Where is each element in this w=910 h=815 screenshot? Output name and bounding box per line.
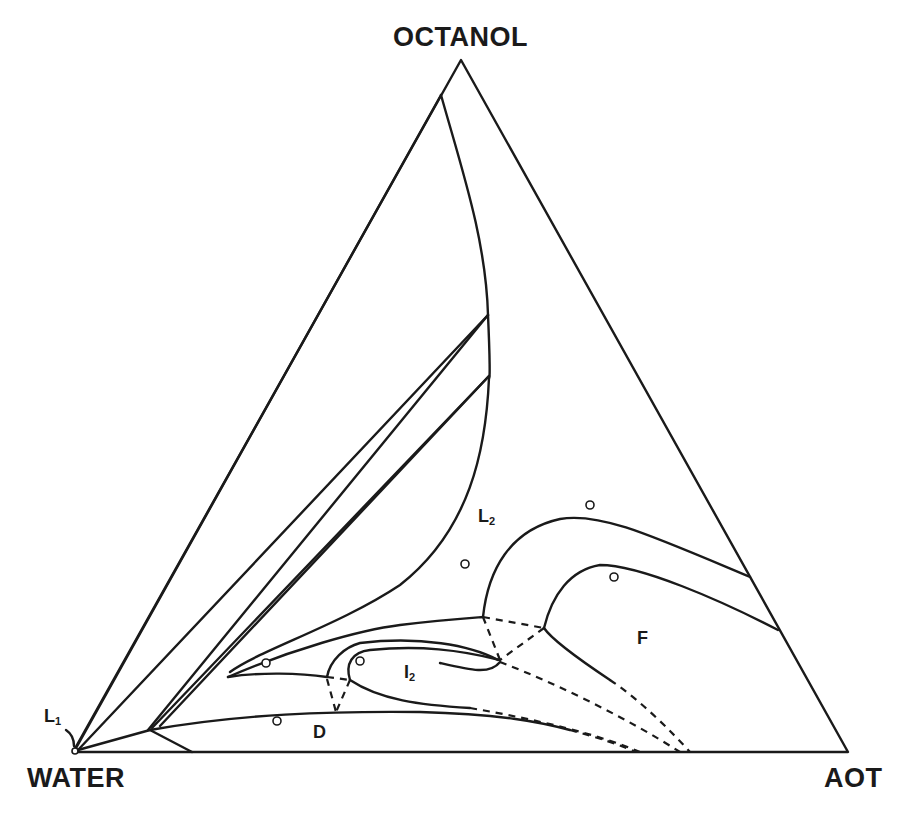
sample-point bbox=[273, 717, 281, 725]
tie-line bbox=[160, 376, 489, 726]
sample-point bbox=[461, 560, 469, 568]
dashed-boundary bbox=[470, 708, 640, 752]
region-line bbox=[228, 674, 327, 677]
region-line bbox=[440, 662, 500, 670]
tie-line bbox=[78, 315, 488, 750]
dashed-boundary bbox=[610, 680, 690, 752]
region-label-f: F bbox=[637, 628, 648, 649]
sample-point bbox=[262, 659, 270, 667]
region-label-i2: I2 bbox=[404, 662, 415, 683]
sample-point bbox=[356, 657, 364, 665]
vertex-label-octanol: OCTANOL bbox=[393, 22, 528, 53]
sample-point bbox=[72, 748, 78, 754]
f-lower-boundary bbox=[544, 628, 610, 680]
dashed-tie bbox=[483, 617, 544, 628]
l1-pointer bbox=[66, 730, 74, 746]
sample-point bbox=[586, 501, 594, 509]
region-label-d: D bbox=[313, 722, 326, 743]
dashed-tie bbox=[327, 677, 350, 680]
vertex-label-water: WATER bbox=[27, 763, 125, 794]
l2-boundary-curve bbox=[230, 95, 490, 672]
i2-lower bbox=[350, 680, 470, 708]
region-label-l1: L1 bbox=[44, 706, 61, 727]
sample-point bbox=[610, 573, 618, 581]
d-boundary bbox=[150, 712, 570, 730]
dashed-boundary bbox=[500, 662, 680, 752]
dashed-tie bbox=[327, 679, 336, 712]
vertex-label-aot: AOT bbox=[824, 763, 883, 794]
i2-inner bbox=[348, 648, 500, 680]
dashed-tie bbox=[336, 680, 350, 712]
region-label-l2: L2 bbox=[478, 506, 495, 527]
dashed-tie bbox=[500, 628, 544, 660]
dashed-boundary bbox=[570, 730, 636, 752]
tie-line bbox=[148, 315, 488, 730]
ternary-phase-diagram bbox=[0, 0, 910, 815]
l2-lower-boundary bbox=[228, 617, 483, 677]
